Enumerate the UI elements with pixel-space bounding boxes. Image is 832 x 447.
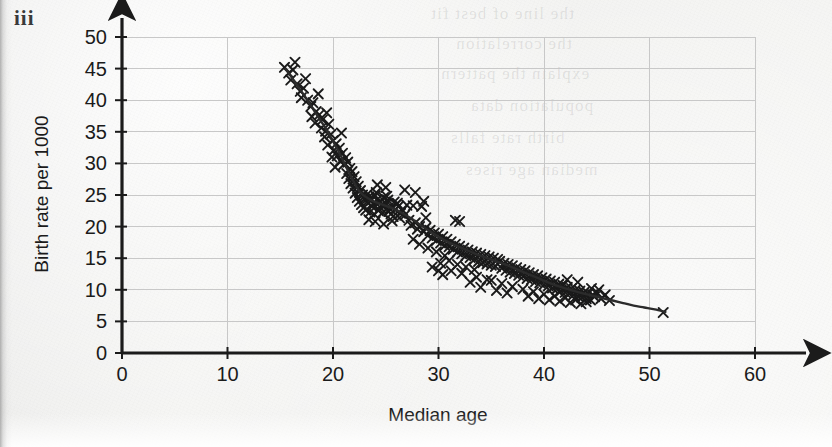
scatter-chart: 010203040506005101520253035404550 Median…	[0, 0, 832, 447]
data-point-marker	[447, 266, 456, 275]
data-point-marker	[518, 285, 527, 294]
y-tick-label: 40	[85, 89, 107, 111]
y-tick-label: 20	[85, 216, 107, 238]
x-tick-label: 50	[638, 363, 660, 385]
x-tick-label: 60	[744, 363, 766, 385]
data-point-marker	[573, 278, 582, 287]
x-tick-label: 20	[322, 363, 344, 385]
y-tick-label: 10	[85, 279, 107, 301]
y-tick-label: 35	[85, 121, 107, 143]
data-point-marker	[524, 292, 533, 301]
y-tick-label: 25	[85, 184, 107, 206]
data-points-layer	[280, 58, 668, 317]
data-point-marker	[337, 128, 346, 137]
x-tick-label: 40	[533, 363, 555, 385]
y-tick-label: 5	[96, 310, 107, 332]
page-bottom-fade	[0, 413, 832, 447]
y-tick-label: 45	[85, 58, 107, 80]
data-point-marker	[438, 270, 447, 279]
data-point-marker	[534, 294, 543, 303]
data-point-marker	[432, 247, 441, 256]
page-root: the line of best fit the correlation exp…	[0, 0, 832, 447]
data-point-marker	[411, 188, 420, 197]
data-point-marker	[472, 273, 481, 282]
data-point-marker	[314, 89, 323, 98]
data-point-marker	[423, 243, 432, 252]
y-tick-label: 50	[85, 26, 107, 48]
data-point-marker	[409, 235, 418, 244]
axes-layer	[115, 18, 806, 359]
data-point-marker	[421, 213, 430, 222]
grid-lines	[122, 37, 755, 353]
x-tick-label: 10	[216, 363, 238, 385]
data-point-marker	[373, 180, 382, 189]
data-point-marker	[381, 183, 390, 192]
page-gutter-shadow	[0, 0, 12, 447]
y-tick-label: 15	[85, 247, 107, 269]
data-point-marker	[545, 295, 554, 304]
data-point-marker	[400, 185, 409, 194]
y-axis-title: Birth rate per 1000	[31, 115, 52, 272]
x-tick-label: 30	[427, 363, 449, 385]
data-point-marker	[290, 58, 299, 67]
axis-tick-labels: 010203040506005101520253035404550	[85, 26, 766, 385]
data-point-marker	[409, 201, 418, 210]
y-tick-label: 0	[96, 342, 107, 364]
data-point-marker	[444, 256, 453, 265]
data-point-marker	[331, 163, 340, 172]
data-point-marker	[379, 219, 388, 228]
data-point-marker	[492, 286, 501, 295]
data-point-marker	[497, 279, 506, 288]
y-tick-label: 30	[85, 152, 107, 174]
x-tick-label: 0	[116, 363, 127, 385]
